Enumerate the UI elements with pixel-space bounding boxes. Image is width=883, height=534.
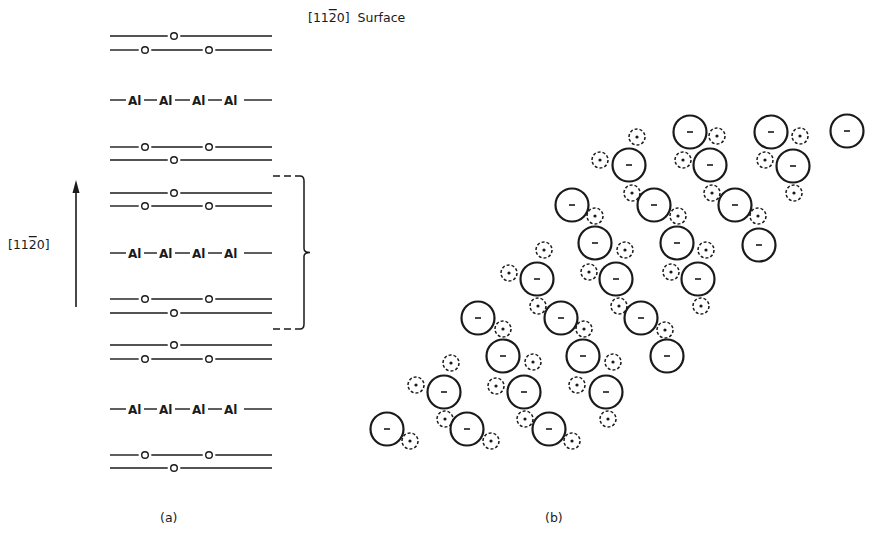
cation-icon [408,377,424,393]
cation-icon [587,208,603,224]
oxygen-site-icon [142,47,149,54]
oxygen-site-icon [171,33,178,40]
cation-icon [443,355,459,371]
anion-icon [567,340,600,373]
anion-icon [694,149,727,182]
crystal-structure-figure: [1120]Surface [1120] AlAlAlAlAlAlAlAlAlA… [0,0,883,534]
aluminum-atom-label: Al [224,94,237,108]
aluminum-atom-label: Al [128,403,141,417]
cation-icon [629,129,645,145]
aluminum-atom-label: Al [159,94,172,108]
panel-a-caption: (a) [160,510,177,525]
overbar-digit: 2 [329,10,337,25]
cation-icon [600,411,616,427]
anion-icon [371,413,404,446]
oxygen-site-icon [206,47,213,54]
cation-icon [617,242,633,258]
anion-icon [743,229,776,262]
cation-icon [402,433,418,449]
anion-icon [533,413,566,446]
anion-icon [625,302,658,335]
cation-icon [569,377,585,393]
oxygen-site-icon [171,190,178,197]
aluminum-layer: AlAlAlAl [110,94,272,108]
cation-icon [536,242,552,258]
cation-icon [709,128,725,144]
anion-icon [674,116,707,149]
oxygen-layer [110,190,272,197]
anion-icon [579,227,612,260]
oxygen-site-icon [142,296,149,303]
cation-icon [483,433,499,449]
anion-icon [755,116,788,149]
cation-icon [605,354,621,370]
oxygen-layer [110,157,272,164]
oxygen-site-icon [206,452,213,459]
anion-icon [590,376,623,409]
panel-b-ion-lattice [371,115,864,450]
oxygen-site-icon [142,452,149,459]
cation-icon [495,321,511,337]
cation-icon [530,298,546,314]
cation-icon [581,264,597,280]
anion-icon [613,149,646,182]
aluminum-atom-label: Al [159,403,172,417]
anion-icon [661,227,694,260]
oxygen-site-icon [171,465,178,472]
oxygen-layer [110,452,272,459]
unit-cell-brace [273,176,310,329]
panel-a-layer-stack: AlAlAlAlAlAlAlAlAlAlAlAl [110,33,272,472]
cation-icon [592,152,608,168]
aluminum-layer: AlAlAlAl [110,403,272,417]
oxygen-site-icon [171,157,178,164]
anion-icon [521,263,554,296]
anion-icon [651,340,684,373]
oxygen-layer [110,465,272,472]
aluminum-atom-label: Al [224,247,237,261]
cation-icon [750,208,766,224]
aluminum-atom-label: Al [192,403,205,417]
oxygen-site-icon [206,356,213,363]
aluminum-atom-label: Al [192,247,205,261]
anion-icon [777,150,810,183]
aluminum-atom-label: Al [128,94,141,108]
oxygen-layer [110,296,272,303]
anion-icon [831,115,864,148]
cation-icon [657,322,673,338]
overbar-digit: 2 [29,237,37,252]
cation-icon [488,378,504,394]
oxygen-layer [110,310,272,317]
anion-icon [682,263,715,296]
anion-icon [508,376,541,409]
anion-icon [556,189,589,222]
oxygen-layer [110,356,272,363]
cation-icon [693,298,709,314]
anion-icon [638,189,671,222]
cation-icon [704,185,720,201]
cation-icon [698,242,714,258]
anion-icon [719,189,752,222]
oxygen-layer [110,203,272,210]
oxygen-layer [110,342,272,349]
direction-label: [1120] [8,237,50,252]
cation-icon [670,208,686,224]
anion-icon [545,302,578,335]
oxygen-layer [110,33,272,40]
oxygen-site-icon [206,296,213,303]
oxygen-site-icon [206,144,213,151]
oxygen-layer [110,47,272,54]
anion-icon [487,340,520,373]
anion-icon [428,376,461,409]
oxygen-site-icon [142,203,149,210]
cation-icon [757,152,773,168]
cation-icon [786,185,802,201]
anion-icon [451,413,484,446]
anion-icon [462,302,495,335]
cation-icon [501,265,517,281]
cation-icon [564,433,580,449]
panel-b-caption: (b) [545,510,563,525]
cation-icon [525,354,541,370]
oxygen-site-icon [206,203,213,210]
cation-icon [576,321,592,337]
cation-icon [437,411,453,427]
